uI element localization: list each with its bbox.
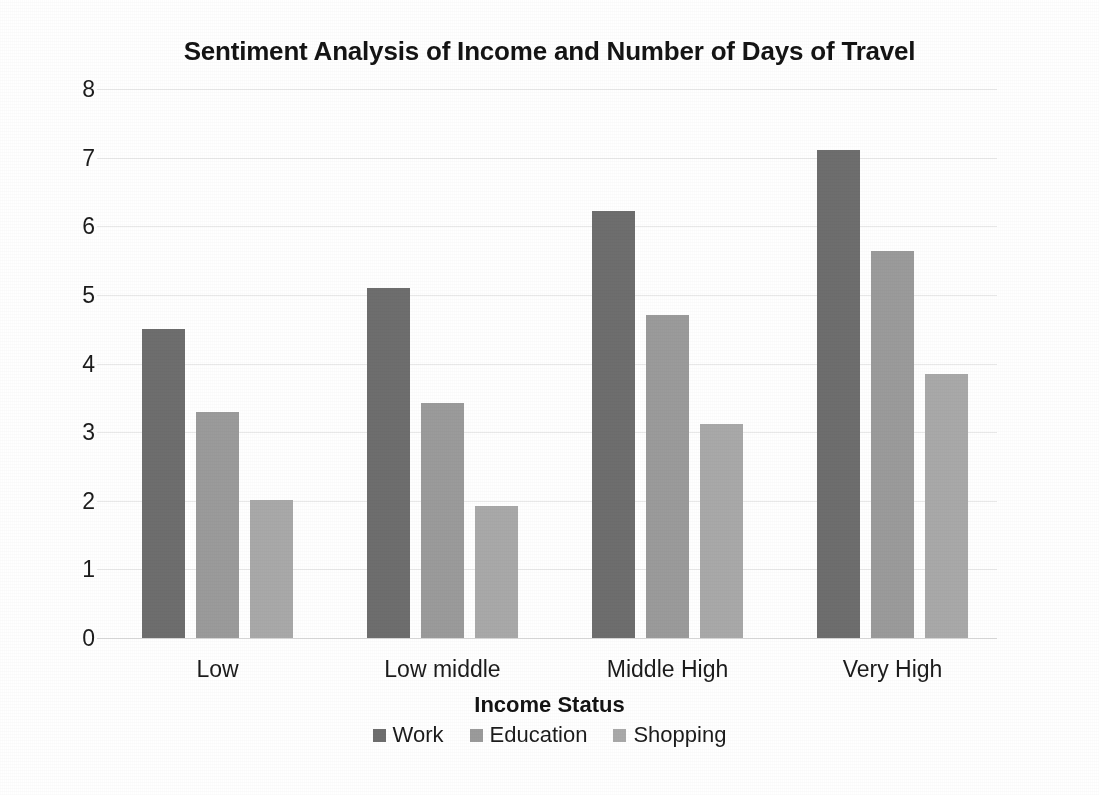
bar-group bbox=[367, 89, 518, 638]
y-tick-label: 2 bbox=[35, 487, 95, 514]
plot-area bbox=[97, 89, 997, 638]
y-tick-label: 6 bbox=[35, 213, 95, 240]
bar-group bbox=[592, 89, 743, 638]
legend-item[interactable]: Education bbox=[470, 722, 588, 748]
bar[interactable] bbox=[925, 374, 968, 638]
legend-swatch-icon bbox=[613, 729, 626, 742]
legend-item[interactable]: Shopping bbox=[613, 722, 726, 748]
axis-baseline bbox=[97, 638, 997, 639]
bar-group bbox=[817, 89, 968, 638]
bar[interactable] bbox=[646, 315, 689, 638]
y-tick-label: 7 bbox=[35, 144, 95, 171]
y-tick-label: 4 bbox=[35, 350, 95, 377]
bar[interactable] bbox=[700, 424, 743, 638]
legend-item[interactable]: Work bbox=[373, 722, 444, 748]
legend-label: Education bbox=[490, 722, 588, 748]
legend-swatch-icon bbox=[470, 729, 483, 742]
x-tick-label: Low middle bbox=[384, 656, 500, 683]
bar[interactable] bbox=[250, 500, 293, 638]
x-axis-title: Income Status bbox=[0, 692, 1099, 718]
y-tick-label: 1 bbox=[35, 556, 95, 583]
bar[interactable] bbox=[367, 288, 410, 638]
bar[interactable] bbox=[475, 506, 518, 638]
bar[interactable] bbox=[592, 211, 635, 638]
x-tick-label: Middle High bbox=[607, 656, 728, 683]
bar[interactable] bbox=[871, 251, 914, 638]
bar[interactable] bbox=[142, 329, 185, 638]
bar[interactable] bbox=[421, 403, 464, 638]
legend-swatch-icon bbox=[373, 729, 386, 742]
y-tick-label: 5 bbox=[35, 281, 95, 308]
legend-label: Work bbox=[393, 722, 444, 748]
bar[interactable] bbox=[196, 412, 239, 638]
bar[interactable] bbox=[817, 150, 860, 638]
legend-label: Shopping bbox=[633, 722, 726, 748]
x-tick-label: Low bbox=[196, 656, 238, 683]
chart-title: Sentiment Analysis of Income and Number … bbox=[0, 36, 1099, 67]
bar-group bbox=[142, 89, 293, 638]
bar-chart: Sentiment Analysis of Income and Number … bbox=[0, 0, 1099, 795]
chart-legend: WorkEducationShopping bbox=[0, 722, 1099, 748]
x-tick-label: Very High bbox=[843, 656, 943, 683]
y-tick-label: 8 bbox=[35, 76, 95, 103]
y-tick-label: 3 bbox=[35, 419, 95, 446]
y-tick-label: 0 bbox=[35, 625, 95, 652]
